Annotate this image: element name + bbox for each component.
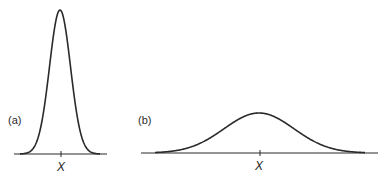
panel-b-x-label: X bbox=[254, 159, 264, 173]
panel-b: (b) X bbox=[138, 113, 378, 173]
panel-b-wide-curve bbox=[155, 113, 365, 153]
panel-a: (a) X bbox=[8, 10, 107, 174]
panel-a-narrow-curve bbox=[20, 10, 100, 154]
figure-canvas: (a) X (b) X bbox=[0, 0, 390, 181]
panel-b-label: (b) bbox=[138, 114, 151, 126]
panel-a-label: (a) bbox=[8, 114, 21, 126]
panel-a-x-label: X bbox=[56, 160, 66, 174]
